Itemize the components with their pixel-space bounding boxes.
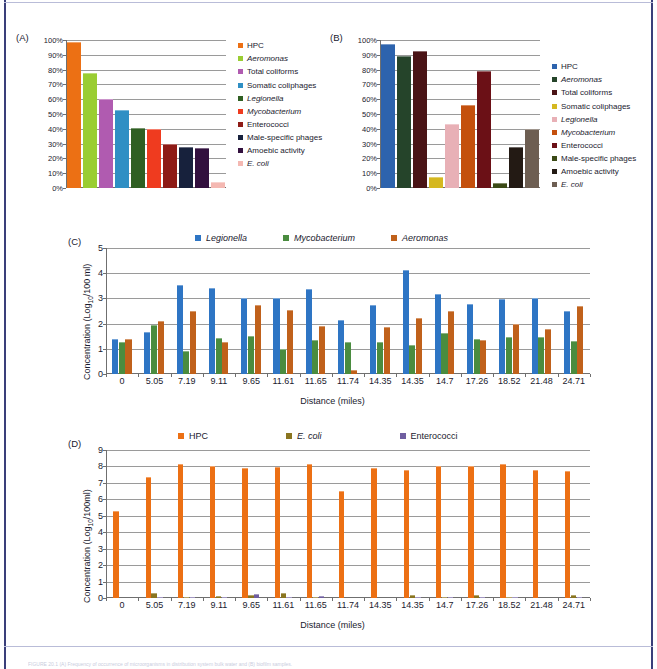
bar-hpc-4 xyxy=(242,468,247,598)
y-axis-tick-label: 3 xyxy=(98,295,103,302)
panel-b: (B) 0%10%20%30%40%50%60%70%80%90%100% HP… xyxy=(330,28,652,203)
legend-label: Mycobacterium xyxy=(247,107,301,116)
x-tickmark xyxy=(493,598,494,601)
panel-c-ylabel-text: Concentration (Log xyxy=(82,303,92,380)
panel-d-legend: HPCE. coliEnterococci xyxy=(178,431,458,441)
y-axis-tick-label: 50% xyxy=(362,111,377,118)
bar-aeromonas-6 xyxy=(319,326,325,374)
bar-legionella-2 xyxy=(177,285,183,374)
bar-hpc-2 xyxy=(178,464,183,598)
legend-swatch xyxy=(552,169,557,174)
y-axis-tick-label: 1 xyxy=(98,345,103,352)
legend-swatch xyxy=(238,96,243,101)
figure-container: (A) 0%10%20%30%40%50%60%70%80%90%100% HP… xyxy=(0,0,657,669)
bar-ecoli-3 xyxy=(216,596,221,598)
bar-aeromonas-14 xyxy=(577,306,583,374)
x-axis-tick-label: 17.26 xyxy=(466,377,489,385)
bar-legionella-4 xyxy=(241,298,247,374)
x-tickmark xyxy=(364,374,365,377)
legend-swatch xyxy=(552,182,557,187)
gridline xyxy=(66,55,226,56)
y-axis-tick-label: 7 xyxy=(98,479,103,486)
bar-aeromonas-8 xyxy=(384,327,390,374)
y-axis-tick-label: 90% xyxy=(362,51,377,58)
x-axis-tick-label: 18.52 xyxy=(498,601,521,609)
bar-mycobacterium-14 xyxy=(571,341,577,374)
bar-mycobacterium-7 xyxy=(345,342,351,374)
legend-label: Legionella xyxy=(247,94,283,103)
bar-ecoli-11 xyxy=(474,595,479,598)
bar-enterococci-9 xyxy=(415,597,420,598)
legend-label: Aeromonas xyxy=(247,54,288,63)
bar-ecoli-10 xyxy=(442,597,447,598)
y-axis-line xyxy=(106,248,107,374)
legend-swatch xyxy=(552,64,557,69)
panel-d-ylabel-sub: 10 xyxy=(87,519,94,526)
bar-hpc-5 xyxy=(275,467,280,598)
bar-ecoli-12 xyxy=(506,597,511,598)
bar-mycobacterium-0 xyxy=(119,342,125,374)
bar-8 xyxy=(509,147,522,188)
bar-mycobacterium-1 xyxy=(151,325,157,374)
bar-legionella-7 xyxy=(338,320,344,374)
y-axis-tick-label: 70% xyxy=(362,81,377,88)
legend-swatch xyxy=(552,143,557,148)
x-tickmark xyxy=(235,374,236,377)
gridline xyxy=(66,40,226,41)
y-axis-tick-label: 20% xyxy=(362,155,377,162)
x-axis-tick-label: 7.19 xyxy=(178,601,196,609)
legend-item-6: Enterococci xyxy=(552,140,636,152)
legend-label: Enterococci xyxy=(561,141,603,150)
x-tickmark xyxy=(106,598,107,601)
frame-left-border xyxy=(4,0,6,669)
x-axis-tick-label: 5.05 xyxy=(146,377,164,385)
y-axis-tick-label: 90% xyxy=(48,51,63,58)
panel-d-ylabel-text: Concentration (Log xyxy=(82,526,92,603)
y-axis-tick-label: 5 xyxy=(98,512,103,519)
y-axis-tick-label: 0 xyxy=(98,595,103,602)
legend-swatch xyxy=(238,83,243,88)
panel-a-legend: HPCAeromonasTotal coliformsSomatic colip… xyxy=(238,40,322,171)
bar-5 xyxy=(461,105,474,188)
bar-hpc-10 xyxy=(436,466,441,598)
y-axis-tick-label: 100% xyxy=(358,37,377,44)
bar-6 xyxy=(477,71,490,188)
x-axis-tick-label: 14.35 xyxy=(401,377,424,385)
y-axis-tick-label: 50% xyxy=(48,111,63,118)
bar-hpc-1 xyxy=(146,477,151,598)
bar-aeromonas-2 xyxy=(190,311,196,374)
bar-hpc-13 xyxy=(533,470,538,598)
x-tickmark xyxy=(106,374,107,377)
bar-ecoli-6 xyxy=(313,597,318,598)
x-tickmark xyxy=(203,598,204,601)
panel-c: (C) LegionellaMycobacteriumAeromonas Con… xyxy=(60,230,605,415)
legend-label: E. coli xyxy=(247,159,269,168)
gridline xyxy=(106,248,590,249)
panel-c-label: (C) xyxy=(68,236,81,247)
bar-enterococci-12 xyxy=(512,597,517,598)
x-axis-tick-label: 11.61 xyxy=(273,601,295,609)
y-axis-tick-label: 40% xyxy=(362,125,377,132)
gridline xyxy=(106,273,590,274)
x-axis-tick-label: 21.48 xyxy=(530,601,553,609)
legend-swatch xyxy=(552,104,557,109)
legend-item-5: Mycobacterium xyxy=(238,105,322,117)
y-tickmark xyxy=(377,188,380,189)
legend-item-1: Aeromonas xyxy=(238,53,322,65)
legend-item-1: E. coli xyxy=(286,431,322,441)
bar-7 xyxy=(493,183,506,188)
panel-b-label: (B) xyxy=(330,32,343,43)
x-tickmark xyxy=(171,374,172,377)
panel-b-plot: 0%10%20%30%40%50%60%70%80%90%100% xyxy=(380,40,540,188)
x-tickmark xyxy=(461,598,462,601)
bar-4 xyxy=(131,128,144,188)
bar-5 xyxy=(147,129,160,188)
bar-ecoli-1 xyxy=(151,593,156,598)
bar-legionella-0 xyxy=(112,339,118,374)
x-axis-tick-label: 11.61 xyxy=(273,377,295,385)
bar-aeromonas-5 xyxy=(287,310,293,374)
x-axis-tick-label: 9.65 xyxy=(242,601,260,609)
legend-item-9: E. coli xyxy=(238,158,322,170)
legend-swatch xyxy=(400,433,406,439)
bar-aeromonas-0 xyxy=(125,339,131,374)
